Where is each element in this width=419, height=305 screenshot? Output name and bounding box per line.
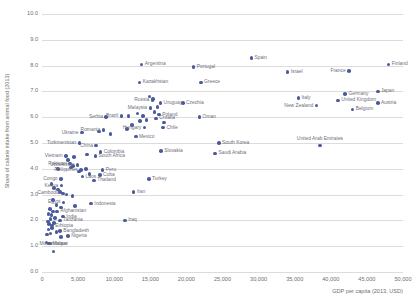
data-point-label: Romania [81,128,101,133]
data-point[interactable] [198,115,202,119]
data-point[interactable] [62,201,66,205]
data-point[interactable] [161,126,165,130]
data-point[interactable] [141,114,145,118]
data-point[interactable] [58,229,62,233]
data-point-label: Czechia [186,101,204,106]
data-point[interactable] [286,70,290,74]
data-point[interactable] [60,184,64,188]
data-point[interactable] [94,144,98,148]
data-point[interactable] [84,167,88,171]
data-point[interactable] [143,126,147,130]
data-point[interactable] [72,155,76,159]
data-point[interactable] [61,192,65,196]
data-point[interactable] [217,141,221,145]
data-point[interactable] [79,168,83,172]
data-point[interactable] [65,193,69,197]
data-point[interactable] [154,117,158,121]
data-point[interactable] [250,56,254,60]
data-point[interactable] [199,81,203,85]
data-point-label: Belgium [356,107,374,112]
data-point-label: Philippines [54,168,78,173]
data-point-label: Japan [381,89,394,94]
x-axis-tick-label: 10,000 [106,277,123,283]
data-point[interactable] [351,108,355,112]
data-point[interactable] [59,235,63,239]
data-point[interactable] [318,144,322,148]
data-point[interactable] [147,177,151,181]
data-point[interactable] [102,128,106,132]
data-point[interactable] [145,118,149,122]
data-point[interactable] [92,179,96,183]
data-point-label: Serbia [89,115,103,120]
data-point[interactable] [159,149,163,153]
x-axis-tick-label: 25,000 [214,277,231,283]
scatter-chart: Share of calorie intake from animal food… [0,0,419,305]
data-point[interactable] [162,121,166,125]
x-axis-tick-label: 45,000 [358,277,375,283]
x-axis-tick-label: 50,000 [394,277,411,283]
data-point-label: Hungary [123,125,142,130]
data-point-label: Oman [203,115,216,120]
data-point[interactable] [52,250,56,254]
y-axis-label: Share of calorie intake from animal food… [0,0,14,262]
data-point[interactable] [138,119,142,123]
data-point[interactable] [134,135,138,139]
data-point-label: South Africa [99,153,125,158]
y-axis-tick-label: 10.0 [27,11,38,17]
data-point[interactable] [213,152,217,156]
data-point[interactable] [71,194,75,198]
data-point-label: Slovakia [164,148,183,153]
data-point[interactable] [153,110,157,114]
data-point[interactable] [66,234,70,238]
data-point[interactable] [89,202,93,206]
y-axis-tick-label: 6.0 [30,114,38,120]
data-point-label: Cambodia [37,191,59,196]
data-point-label: Iraq [128,218,136,223]
data-point[interactable] [81,175,85,179]
data-point[interactable] [156,105,160,109]
data-point[interactable] [109,132,113,136]
data-point[interactable] [297,96,301,100]
data-point[interactable] [315,104,319,108]
data-point-label: Kazakhstan [143,80,169,85]
data-point-label: United Arab Emirates [297,136,343,141]
data-point[interactable] [336,99,340,103]
data-point[interactable] [47,228,51,232]
data-point[interactable] [64,154,68,158]
y-axis-tick-label: 2.0 [30,218,38,224]
data-point-label: Chile [166,125,177,130]
data-point[interactable] [376,90,380,94]
data-point[interactable] [94,154,98,158]
data-point-label: Austria [381,101,396,106]
data-point-label: Mexico [139,134,155,139]
data-point[interactable] [149,106,153,110]
data-point[interactable] [159,101,163,105]
data-point[interactable] [138,81,142,85]
data-point-label: Turkey [152,177,167,182]
data-point[interactable] [132,190,136,194]
data-point[interactable] [59,177,63,181]
y-axis-tick-label: 0.0 [30,269,38,275]
data-point[interactable] [120,114,124,118]
data-point[interactable] [347,69,351,73]
data-point[interactable] [45,233,49,237]
plot-area: 0.01.02.03.04.05.06.07.08.09.010.005,000… [42,14,403,272]
data-point[interactable] [104,115,108,119]
data-point[interactable] [49,232,53,236]
data-point-label: Germany [348,92,368,97]
data-point[interactable] [123,219,127,223]
data-point[interactable] [151,99,155,103]
data-point[interactable] [192,65,196,69]
data-point-label: Croatia [159,116,175,121]
data-point[interactable] [136,112,140,116]
data-point-label: Kenya [44,183,58,188]
data-point-label: Israel [291,70,303,75]
data-point[interactable] [55,210,59,214]
data-point[interactable] [343,92,347,96]
y-axis-label-text: Share of calorie intake from animal food… [4,74,10,189]
data-point[interactable] [376,101,380,105]
data-point[interactable] [53,216,57,220]
data-point-label: Turkmenistan [47,141,76,146]
data-point-label: China [80,143,93,148]
data-point[interactable] [85,153,89,157]
